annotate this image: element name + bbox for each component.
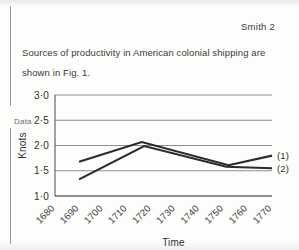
y-tick-label: 3·0: [34, 90, 49, 101]
series-label: (2): [277, 163, 289, 174]
y-axis-title: Knots: [17, 132, 28, 159]
x-axis-title: Time: [162, 237, 185, 248]
chart-canvas: 3·02·52·01·51·0 168016901700171017201730…: [0, 86, 299, 250]
figure-line-chart: 3·02·52·01·51·0 168016901700171017201730…: [0, 86, 299, 250]
y-tick-label: 1·0: [34, 191, 49, 202]
x-tick-label: 1700: [82, 203, 105, 226]
x-tick-labels: 1680169017001710172017301740175017601770: [33, 203, 273, 226]
grid-lines: [55, 95, 272, 196]
y-tick-label: 2·5: [34, 115, 49, 126]
series-label: (1): [277, 150, 289, 161]
x-tick-label: 1750: [202, 203, 225, 226]
running-header: Smith 2: [241, 21, 275, 32]
x-tick-label: 1770: [250, 203, 273, 226]
x-tick-label: 1760: [226, 203, 249, 226]
x-tick-label: 1680: [33, 203, 56, 226]
x-tick-label: 1720: [130, 203, 153, 226]
y-tick-label: 1·5: [34, 165, 49, 176]
x-tick-label: 1690: [58, 203, 81, 226]
y-tick-labels: 3·02·52·01·51·0: [34, 90, 49, 202]
x-tick-label: 1730: [154, 203, 177, 226]
body-paragraph: Sources of productivity in American colo…: [22, 43, 280, 83]
scanned-page-surface: Data Smith 2 Sources of productivity in …: [0, 0, 299, 250]
series-paths: [79, 142, 272, 179]
x-tick-label: 1710: [106, 203, 129, 226]
series-labels: (1)(2): [277, 150, 289, 174]
scan-shade-top: [0, 0, 299, 7]
y-tick-label: 2·0: [34, 140, 49, 151]
x-tick-label: 1740: [178, 203, 201, 226]
